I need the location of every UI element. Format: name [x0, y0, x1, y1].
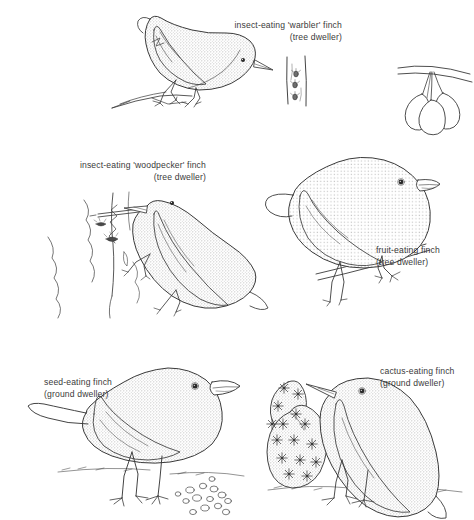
- label-cactus-eating-finch: cactus-eating finch (ground dweller): [380, 366, 472, 389]
- label-woodpecker-line2: (tree dweller): [50, 172, 206, 184]
- label-cactus-line2: (ground dweller): [380, 378, 472, 390]
- woodpecker-finch-illustration: [48, 192, 268, 318]
- seed-pile: [175, 477, 231, 515]
- label-seed-line1: seed-eating finch: [44, 377, 112, 387]
- label-woodpecker-line1: insect-eating 'woodpecker' finch: [80, 160, 206, 170]
- label-seed-line2: (ground dweller): [44, 389, 140, 401]
- cactus-finch-illustration: [267, 378, 462, 518]
- label-fruit-line1: fruit-eating finch: [376, 245, 440, 255]
- grub-2: [104, 232, 118, 242]
- tree-trunk-with-insects-illustration: [287, 56, 307, 106]
- label-cactus-line1: cactus-eating finch: [380, 366, 455, 376]
- label-warbler-line1: insect-eating 'warbler' finch: [235, 20, 342, 30]
- insect-3: [291, 92, 300, 100]
- label-seed-eating-finch: seed-eating finch (ground dweller): [44, 377, 140, 400]
- finch-adaptation-diagram: insect-eating 'warbler' finch (tree dwel…: [0, 0, 474, 520]
- label-woodpecker-finch: insect-eating 'woodpecker' finch (tree d…: [50, 160, 206, 183]
- insect-1: [292, 69, 301, 77]
- insect-2: [291, 80, 300, 88]
- grub-3: [123, 252, 127, 266]
- grub-1: [94, 218, 106, 226]
- label-fruit-eating-finch: fruit-eating finch (tree dweller): [376, 245, 470, 268]
- label-fruit-line2: (tree dweller): [376, 257, 470, 269]
- label-warbler-line2: (tree dweller): [200, 32, 342, 44]
- fruit-eating-finch-illustration: [265, 157, 440, 306]
- fruit-cluster-illustration: [398, 66, 472, 135]
- label-warbler-finch: insect-eating 'warbler' finch (tree dwel…: [200, 20, 342, 43]
